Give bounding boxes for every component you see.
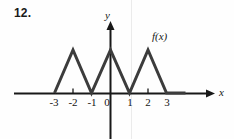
- y-axis-arrowhead: [107, 21, 115, 30]
- x-tick-label-neg3: -3: [46, 96, 62, 108]
- x-axis-label: x: [219, 86, 224, 98]
- x-axis-arrowhead: [206, 90, 215, 98]
- triangle-wave-graph: [0, 0, 234, 139]
- x-tick-label-pos2: 2: [140, 96, 156, 108]
- x-tick-label-neg1: -1: [84, 96, 100, 108]
- x-tick-label-zero: 0: [99, 96, 115, 108]
- figure-page: 12. y x f(x) -3 -2 -1 0 1 2 3: [0, 0, 234, 139]
- y-axis-label: y: [105, 9, 110, 21]
- function-label-fx: f(x): [152, 30, 167, 42]
- x-tick-label-pos3: 3: [159, 96, 175, 108]
- x-tick-label-pos1: 1: [122, 96, 138, 108]
- x-tick-label-neg2: -2: [65, 96, 81, 108]
- function-curve-fx: [55, 50, 186, 93]
